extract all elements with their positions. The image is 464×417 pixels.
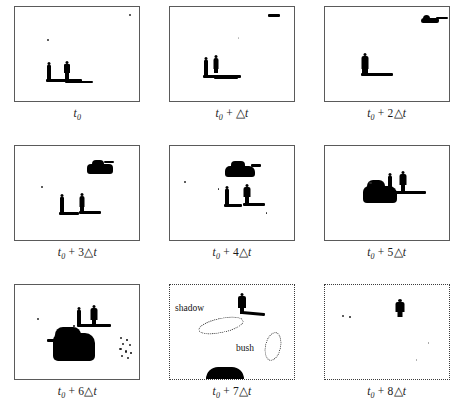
speck-noise [266,212,268,214]
panel-caption-1: t0 [74,107,82,123]
person-silhouette [238,293,247,314]
panel-caption-4: t0 + 3△t [58,246,97,262]
tank-silhouette [421,18,439,23]
panel-caption-7: t0 + 6△t [58,385,97,401]
person-silhouette [213,55,220,77]
panel-caption-6: t0 + 5△t [367,246,406,262]
tank-turret [55,327,81,336]
noise-cluster [118,337,134,361]
bush-annotation-ellipse [262,331,284,363]
video-frame-4[interactable] [14,145,140,241]
video-frame-2[interactable] [169,6,295,102]
shadow-silhouette [65,81,93,83]
panel-cell-5: t0 + 4△t [155,139,310,278]
figure-root: t0 t0 + △t [0,0,464,417]
person-silhouette [90,305,98,326]
panel-caption-5: t0 + 4△t [212,246,251,262]
person-legs [388,184,392,191]
panel-cell-6: t0 + 5△t [309,139,464,278]
speck-noise [41,186,43,188]
shadow-silhouette [214,77,238,79]
video-frame-5[interactable] [169,145,295,241]
person-silhouette [59,194,65,213]
video-frame-3[interactable] [324,6,450,102]
person-silhouette [243,184,251,204]
person-legs [245,196,249,203]
tank-turret [92,160,104,165]
person-silhouette [76,307,82,325]
tank-barrel [104,161,114,163]
person-legs [92,319,96,326]
panel-cell-8: shadow bush t0 + 7△t [155,278,310,417]
speck-noise [184,181,186,183]
video-frame-9[interactable] [324,284,450,380]
person-silhouette [46,62,52,81]
person-silhouette [387,173,393,192]
person-legs [204,68,208,75]
panel-cell-3: t0 + 2△t [309,0,464,139]
video-frame-1[interactable] [14,6,140,102]
speck-noise [218,188,220,190]
tank-partial-silhouette [206,367,244,380]
frame-grid: t0 t0 + △t [0,0,464,417]
tank-barrel [436,17,448,19]
person-legs [60,205,64,212]
person-legs [47,73,51,80]
speck-noise [129,14,131,16]
person-silhouette [63,61,70,81]
person-legs [65,72,69,79]
panel-caption-2: t0 + △t [215,107,248,123]
speck-noise [349,316,352,318]
shadow-silhouette [388,191,426,194]
tank-barrel [47,339,55,342]
shadow-annotation-ellipse [197,313,245,337]
person-silhouette-merged [361,53,369,75]
person-silhouette [395,299,405,317]
speck-noise [342,315,344,317]
person-legs [80,204,84,211]
panel-caption-9: t0 + 8△t [367,385,406,401]
vehicle-far-silhouette [268,14,280,17]
person-silhouette [203,57,209,77]
tank-silhouette [87,164,113,174]
panel-cell-9: t0 + 8△t [309,278,464,417]
panel-cell-1: t0 [0,0,155,139]
speck-noise [238,37,240,39]
panel-caption-3: t0 + 2△t [367,107,406,123]
person-legs [214,66,218,73]
panel-cell-2: t0 + △t [155,0,310,139]
speck-noise [416,359,418,361]
person-legs [397,311,402,317]
person-legs [401,184,405,192]
video-frame-6[interactable] [324,145,450,241]
person-silhouette [78,193,85,213]
person-silhouette [399,171,407,192]
person-legs [77,318,81,325]
panel-cell-7: t0 + 6△t [0,278,155,417]
person-legs [362,68,368,75]
person-silhouette [224,186,230,205]
person-legs [225,197,229,204]
panel-caption-8: t0 + 7△t [212,385,251,401]
tank-barrel [251,164,261,167]
speck-noise [37,318,39,320]
video-frame-7[interactable] [14,284,140,380]
speck-noise [47,39,49,41]
bush-annotation-label: bush [236,343,254,353]
tank-large-silhouette [53,333,95,361]
shadow-annotation-label: shadow [175,303,204,313]
tank-turret [231,161,245,167]
tank-turret [423,15,430,19]
panel-cell-4: t0 + 3△t [0,139,155,278]
video-frame-8[interactable]: shadow bush [169,284,295,380]
tank-silhouette [225,166,255,177]
speck-noise [369,182,372,184]
speck-noise [428,342,430,344]
person-legs [240,307,244,314]
